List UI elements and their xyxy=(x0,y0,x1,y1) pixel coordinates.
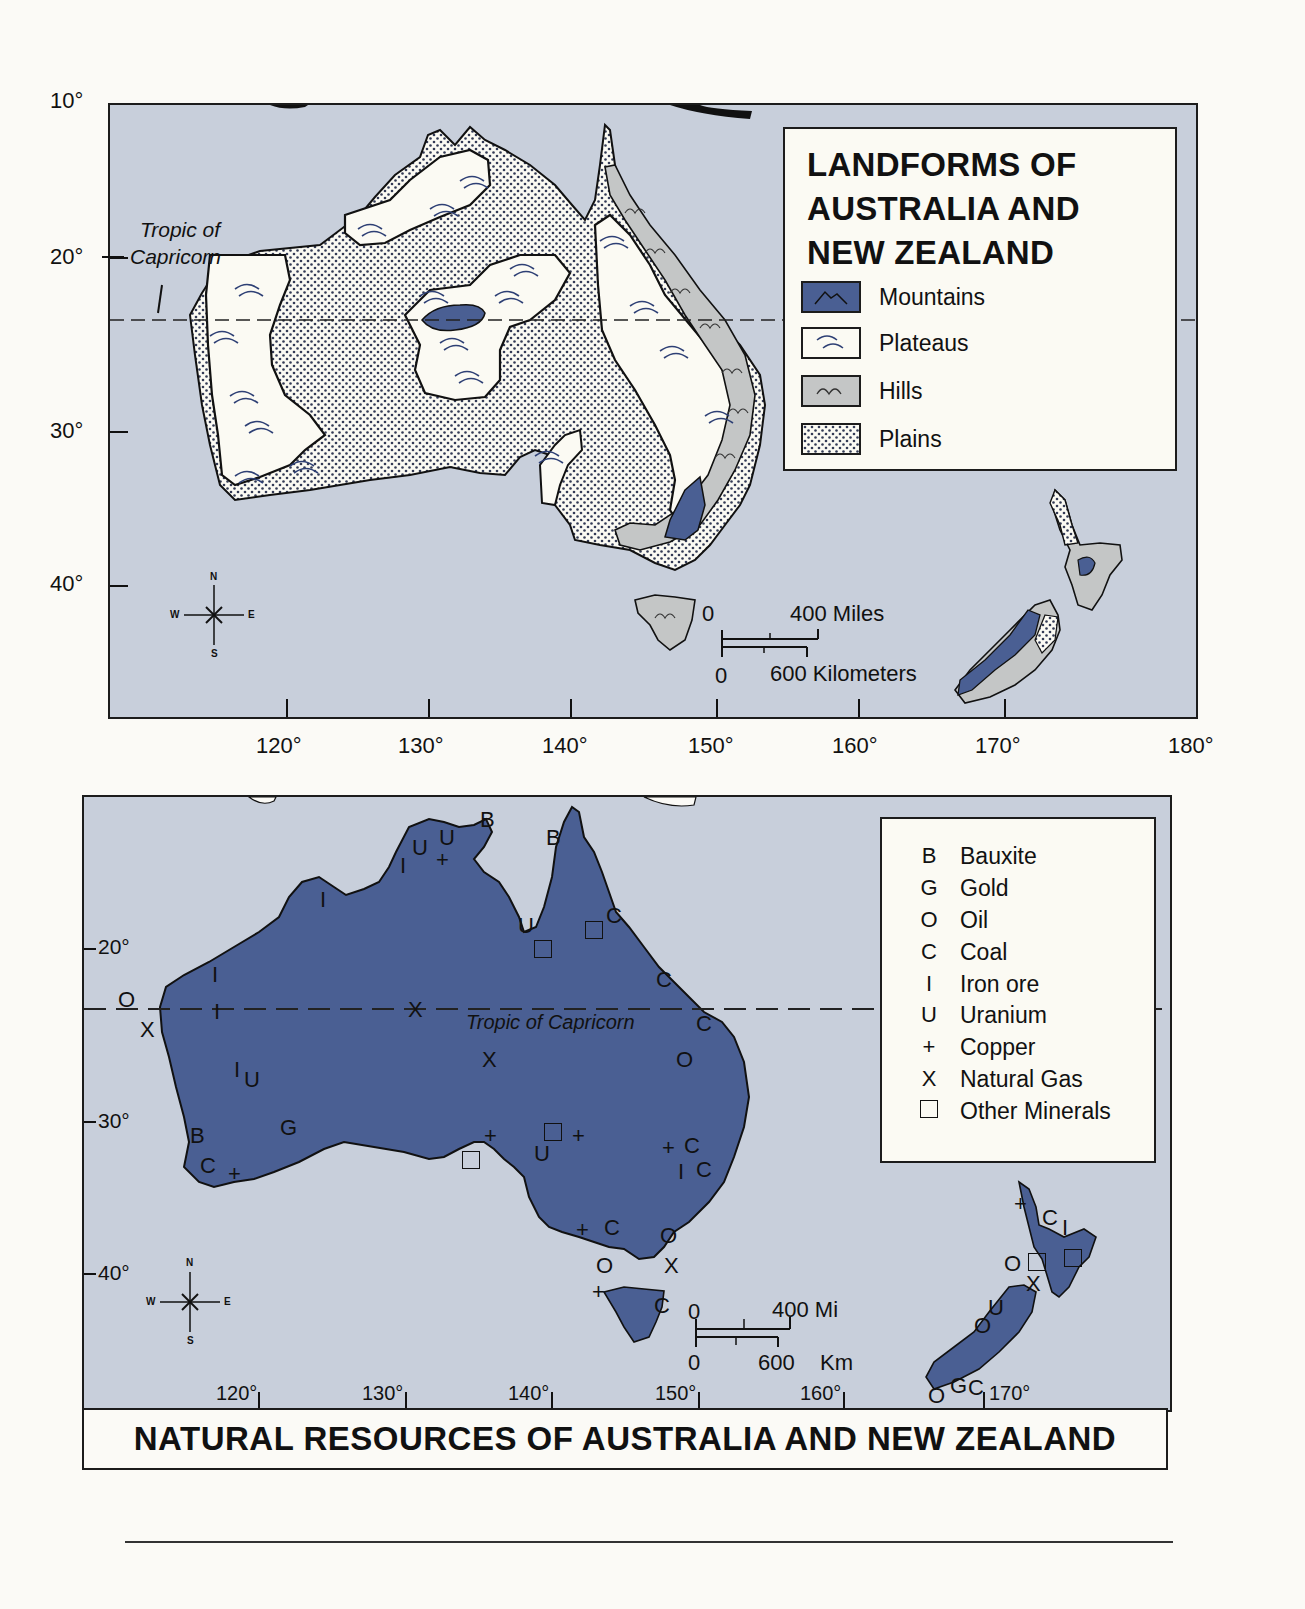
compass-n: N xyxy=(186,1257,193,1268)
lon-label-150: 150° xyxy=(688,733,734,759)
lat-label-10: 10° xyxy=(50,88,83,114)
marker-coal: C xyxy=(968,1377,984,1399)
compass-e: E xyxy=(248,609,255,620)
legend-label-hills: Hills xyxy=(879,378,922,405)
marker-coal: C xyxy=(696,1013,712,1035)
legend-item-plains: Plains xyxy=(801,421,942,457)
compass-s: S xyxy=(211,648,218,659)
legend-item-uranium: U Uranium xyxy=(910,1000,1047,1030)
landforms-legend: LANDFORMS OF AUSTRALIA AND NEW ZEALAND M… xyxy=(783,127,1177,471)
copper-symbol-icon: + xyxy=(910,1034,948,1060)
legend-item-oil: O Oil xyxy=(910,905,988,935)
marker-coal: C xyxy=(606,905,622,927)
marker-uranium: U xyxy=(412,837,428,859)
marker-iron: I xyxy=(320,889,326,911)
lon-label-160: 160° xyxy=(832,733,878,759)
marker-other-minerals xyxy=(1028,1253,1046,1271)
marker-natural-gas: X xyxy=(482,1049,497,1071)
marker-gold: G xyxy=(950,1375,967,1397)
marker-oil: O xyxy=(596,1255,613,1277)
lon-label-160: 160° xyxy=(800,1382,841,1405)
marker-oil: O xyxy=(1004,1253,1021,1275)
compass-n: N xyxy=(210,571,217,582)
marker-copper: + xyxy=(592,1281,605,1303)
legend-label-uranium: Uranium xyxy=(960,1002,1047,1029)
legend-label-plains: Plains xyxy=(879,426,942,453)
landforms-compass xyxy=(184,585,244,645)
marker-copper: + xyxy=(484,1125,497,1147)
lon-label-140: 140° xyxy=(542,733,588,759)
marker-coal: C xyxy=(200,1155,216,1177)
lat-label-30: 30° xyxy=(98,1109,130,1133)
marker-coal: C xyxy=(684,1135,700,1157)
coal-symbol-icon: C xyxy=(910,939,948,965)
landforms-scale-bar xyxy=(722,629,818,657)
marker-coal: C xyxy=(654,1295,670,1317)
marker-iron: I xyxy=(212,964,218,986)
scale-miles-label: 400 Mi xyxy=(772,1297,838,1323)
landforms-title-line-3: NEW ZEALAND xyxy=(807,231,1080,275)
plains-swatch-icon xyxy=(801,423,861,455)
other-minerals-box-icon xyxy=(910,1098,948,1124)
scale-km-zero: 0 xyxy=(688,1350,700,1376)
marker-natural-gas: X xyxy=(408,999,423,1021)
scale-miles-zero: 0 xyxy=(702,601,714,627)
legend-label-plateaus: Plateaus xyxy=(879,330,969,357)
marker-other-minerals xyxy=(1064,1249,1082,1267)
lon-label-140: 140° xyxy=(508,1382,549,1405)
marker-coal: C xyxy=(656,969,672,991)
legend-label-other-minerals: Other Minerals xyxy=(960,1098,1111,1125)
legend-item-coal: C Coal xyxy=(910,937,1007,967)
marker-uranium: U xyxy=(534,1143,550,1165)
resources-compass xyxy=(160,1272,220,1332)
legend-label-oil: Oil xyxy=(960,907,988,934)
marker-other-minerals xyxy=(544,1123,562,1141)
marker-coal: C xyxy=(604,1217,620,1239)
marker-copper: + xyxy=(572,1125,585,1147)
bauxite-symbol-icon: B xyxy=(910,843,948,869)
lat-label-20: 20° xyxy=(50,244,83,270)
tropic-label-line-2: Capricorn xyxy=(130,245,221,269)
plateaus-swatch-icon xyxy=(801,327,861,359)
marker-other-minerals xyxy=(534,940,552,958)
resources-map-frame: N S E W 20° 30° 40° 120° 130° 140° 150° … xyxy=(82,795,1172,1412)
legend-item-bauxite: B Bauxite xyxy=(910,841,1037,871)
lon-label-170: 170° xyxy=(989,1382,1030,1405)
marker-oil: O xyxy=(660,1225,677,1247)
oil-symbol-icon: O xyxy=(910,907,948,933)
scale-miles-zero: 0 xyxy=(688,1299,700,1325)
tropic-label: Tropic of xyxy=(138,216,220,244)
resources-map-title: NATURAL RESOURCES OF AUSTRALIA AND NEW Z… xyxy=(82,1408,1168,1470)
legend-item-other-minerals: Other Minerals xyxy=(910,1096,1111,1126)
marker-oil: O xyxy=(676,1049,693,1071)
natural-gas-symbol-icon: X xyxy=(910,1066,948,1092)
lat-label-30: 30° xyxy=(50,418,83,444)
marker-other-minerals xyxy=(585,921,603,939)
marker-other-minerals xyxy=(462,1151,480,1169)
marker-gold: G xyxy=(280,1117,297,1139)
uranium-symbol-icon: U xyxy=(910,1002,948,1028)
footer-divider xyxy=(125,1541,1173,1543)
hills-swatch-icon xyxy=(801,375,861,407)
marker-bauxite: B xyxy=(190,1125,205,1147)
scale-km-unit: Km xyxy=(820,1350,853,1376)
legend-item-copper: + Copper xyxy=(910,1032,1035,1062)
scale-miles-label: 400 Miles xyxy=(790,601,884,627)
marker-iron: I xyxy=(678,1161,684,1183)
marker-iron: I xyxy=(1062,1217,1068,1239)
marker-iron: I xyxy=(214,1001,220,1023)
lon-label-120: 120° xyxy=(256,733,302,759)
lon-label-130: 130° xyxy=(362,1382,403,1405)
tropic-label: Tropic of Capricorn xyxy=(466,1011,635,1034)
marker-uranium: U xyxy=(244,1069,260,1091)
legend-label-mountains: Mountains xyxy=(879,284,985,311)
lon-label-180: 180° xyxy=(1168,733,1214,759)
legend-label-bauxite: Bauxite xyxy=(960,843,1037,870)
compass-w: W xyxy=(170,609,179,620)
landforms-title: LANDFORMS OF AUSTRALIA AND NEW ZEALAND xyxy=(807,143,1080,275)
marker-iron: I xyxy=(400,855,406,877)
marker-coal: C xyxy=(696,1159,712,1181)
tropic-label-dash xyxy=(102,256,124,258)
lon-label-170: 170° xyxy=(975,733,1021,759)
legend-item-mountains: Mountains xyxy=(801,279,985,315)
